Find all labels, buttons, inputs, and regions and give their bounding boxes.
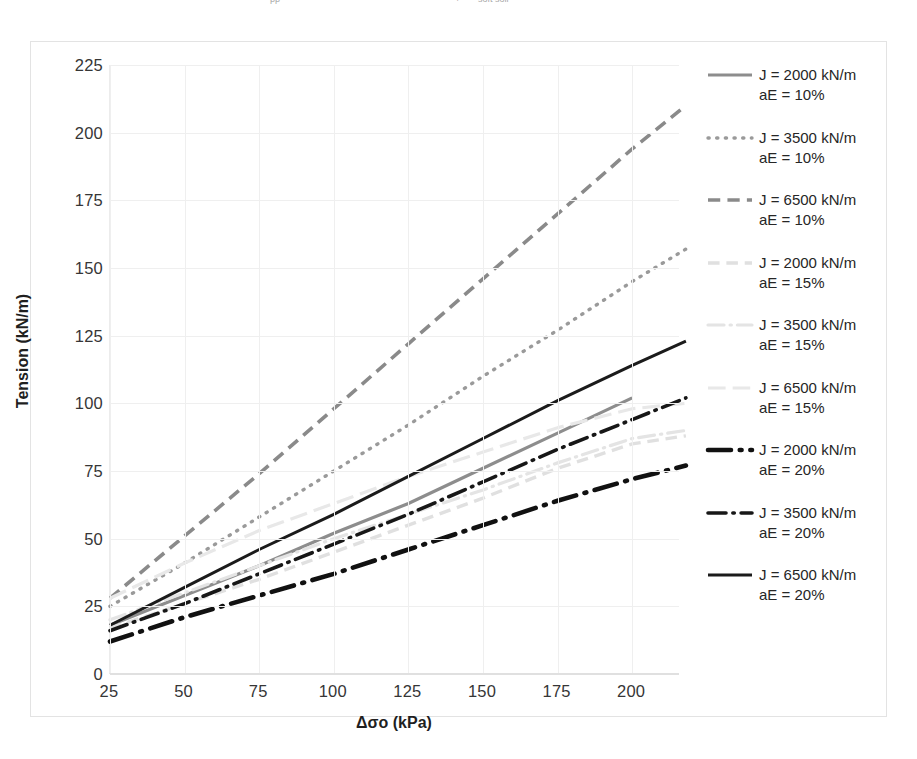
legend-item[interactable]: J = 2000 kN/maE = 10% xyxy=(707,65,856,117)
legend-label: J = 6500 kN/maE = 10% xyxy=(759,190,856,230)
gridline-horizontal xyxy=(110,606,679,607)
legend-label-line1: J = 2000 kN/m xyxy=(759,441,856,458)
legend-item[interactable]: J = 3500 kN/maE = 20% xyxy=(707,503,856,555)
y-axis-tick-label: 200 xyxy=(51,123,103,142)
gridline-horizontal xyxy=(110,200,679,201)
legend-swatch-dashed xyxy=(707,254,753,272)
y-axis-ticks: 2252001751501251007550250 xyxy=(43,65,103,674)
gridline-horizontal xyxy=(110,674,679,675)
legend-label: J = 6500 kN/maE = 20% xyxy=(759,565,856,605)
legend-swatch-dashdot xyxy=(707,504,753,522)
series-line xyxy=(110,106,686,599)
legend-label: J = 2000 kN/maE = 15% xyxy=(759,253,856,293)
gridline-vertical xyxy=(259,65,260,673)
legend-swatch-dotted xyxy=(707,129,753,147)
gridline-horizontal xyxy=(110,65,679,66)
y-axis-tick-label: 150 xyxy=(51,259,103,278)
gridline-vertical xyxy=(408,65,409,673)
legend-label: J = 3500 kN/maE = 15% xyxy=(759,315,856,355)
gridline-vertical xyxy=(632,65,633,673)
x-axis-tick-label: 100 xyxy=(303,682,363,701)
legend-item[interactable]: J = 6500 kN/maE = 20% xyxy=(707,565,856,617)
y-axis-tick-label: 0 xyxy=(51,665,103,684)
gridline-horizontal xyxy=(110,268,679,269)
legend-label-line2: aE = 15% xyxy=(759,398,856,418)
legend-label-line1: J = 3500 kN/m xyxy=(759,504,856,521)
legend-swatch-dashdot xyxy=(707,316,753,334)
x-axis-tick-label: 175 xyxy=(527,682,587,701)
legend-label: J = 3500 kN/maE = 10% xyxy=(759,128,856,168)
legend-label-line1: J = 3500 kN/m xyxy=(759,316,856,333)
legend-label-line2: aE = 10% xyxy=(759,210,856,230)
y-axis-tick-label: 125 xyxy=(51,326,103,345)
gridline-vertical xyxy=(334,65,335,673)
y-axis-tick-label: 100 xyxy=(51,394,103,413)
legend-label-line1: J = 2000 kN/m xyxy=(759,66,856,83)
x-axis-tick-label: 75 xyxy=(228,682,288,701)
gridline-vertical xyxy=(185,65,186,673)
legend-swatch-longdash xyxy=(707,379,753,397)
legend-item[interactable]: J = 3500 kN/maE = 10% xyxy=(707,128,856,180)
legend-label: J = 2000 kN/maE = 10% xyxy=(759,65,856,105)
y-axis-tick-label: 175 xyxy=(51,191,103,210)
legend-item[interactable]: J = 2000 kN/maE = 15% xyxy=(707,253,856,305)
legend-item[interactable]: J = 6500 kN/maE = 15% xyxy=(707,378,856,430)
legend-label-line2: aE = 20% xyxy=(759,585,856,605)
legend-label-line2: aE = 10% xyxy=(759,148,856,168)
legend-swatch-dashed xyxy=(707,191,753,209)
legend-label: J = 2000 kN/maE = 20% xyxy=(759,440,856,480)
gridline-vertical xyxy=(483,65,484,673)
legend-swatch-dashdot xyxy=(707,441,753,459)
legend-label-line2: aE = 15% xyxy=(759,273,856,293)
gridline-vertical xyxy=(558,65,559,673)
gridline-horizontal xyxy=(110,133,679,134)
top-fragment-right: soft soil xyxy=(478,0,509,4)
top-fragment-left: pp xyxy=(270,0,280,4)
legend-label-line2: aE = 20% xyxy=(759,460,856,480)
plot-area xyxy=(109,65,679,674)
gridline-horizontal xyxy=(110,539,679,540)
y-axis-tick-label: 50 xyxy=(51,529,103,548)
y-axis-title: Tension (kN/m) xyxy=(14,294,32,408)
gridline-horizontal xyxy=(110,471,679,472)
top-fragment-plus: + xyxy=(455,0,460,4)
x-axis-tick-label: 125 xyxy=(377,682,437,701)
legend-label-line1: J = 6500 kN/m xyxy=(759,379,856,396)
gridline-horizontal xyxy=(110,403,679,404)
legend-label: J = 3500 kN/maE = 20% xyxy=(759,503,856,543)
legend-item[interactable]: J = 2000 kN/maE = 20% xyxy=(707,440,856,492)
y-axis-tick-label: 225 xyxy=(51,56,103,75)
top-text-fragment: pp + soft soil xyxy=(0,0,917,14)
legend-label-line1: J = 3500 kN/m xyxy=(759,129,856,146)
legend-label-line1: J = 2000 kN/m xyxy=(759,254,856,271)
x-axis-tick-label: 50 xyxy=(154,682,214,701)
gridline-horizontal xyxy=(110,336,679,337)
series-layer xyxy=(110,65,680,674)
x-axis-title: Δσo (kPa) xyxy=(109,714,679,732)
gridline-vertical xyxy=(110,65,111,673)
y-axis-tick-label: 25 xyxy=(51,597,103,616)
legend-item[interactable]: J = 6500 kN/maE = 10% xyxy=(707,190,856,242)
legend-label: J = 6500 kN/maE = 15% xyxy=(759,378,856,418)
legend-item[interactable]: J = 3500 kN/maE = 15% xyxy=(707,315,856,367)
x-axis-tick-label: 200 xyxy=(601,682,661,701)
legend-label-line1: J = 6500 kN/m xyxy=(759,566,856,583)
legend-label-line2: aE = 20% xyxy=(759,523,856,543)
x-axis-tick-label: 150 xyxy=(452,682,512,701)
series-line xyxy=(110,398,686,631)
legend-swatch-solid xyxy=(707,66,753,84)
series-line xyxy=(110,341,686,625)
legend-label-line1: J = 6500 kN/m xyxy=(759,191,856,208)
y-axis-tick-label: 75 xyxy=(51,462,103,481)
legend-swatch-solid xyxy=(707,566,753,584)
x-axis-tick-label: 25 xyxy=(79,682,139,701)
legend-label-line2: aE = 10% xyxy=(759,85,856,105)
legend-label-line2: aE = 15% xyxy=(759,335,856,355)
chart-container: Tension (kN/m) 2252001751501251007550250… xyxy=(30,41,887,717)
series-line xyxy=(110,466,686,642)
